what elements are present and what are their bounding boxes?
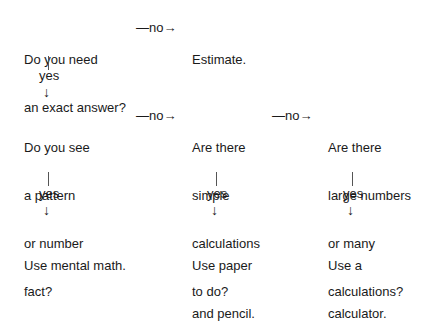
node-line: large numbers — [328, 188, 411, 204]
down-arrow-icon: ↓ — [43, 84, 50, 100]
down-arrow-icon: ↓ — [347, 202, 354, 218]
yes-label-1: yes — [39, 68, 59, 84]
node-use-mental-math: Use mental math. — [24, 226, 126, 290]
node-line: Do you see — [24, 140, 90, 156]
node-line: Use paper — [192, 258, 255, 274]
node-use-paper-pencil: Use paper and pencil. — [192, 226, 255, 325]
node-line: Use mental math. — [24, 258, 126, 274]
yes-label-3: yes — [207, 186, 227, 202]
node-line: Do you need — [24, 52, 126, 68]
connector-line — [216, 172, 217, 186]
connector-line — [48, 172, 49, 186]
node-line: Estimate. — [192, 52, 246, 68]
node-line: Are there — [192, 140, 260, 156]
no-arrow-3: —no→ — [272, 108, 312, 124]
node-line: and pencil. — [192, 306, 255, 322]
yes-label-2: yes — [39, 186, 59, 202]
yes-label-4: yes — [343, 186, 363, 202]
connector-line — [352, 172, 353, 186]
no-arrow-1: —no→ — [136, 20, 176, 36]
node-use-calculator: Use a calculator. — [328, 226, 387, 325]
no-arrow-2: —no→ — [136, 108, 176, 124]
node-estimate: Estimate. — [192, 20, 246, 84]
node-line: calculator. — [328, 306, 387, 322]
down-arrow-icon: ↓ — [43, 202, 50, 218]
down-arrow-icon: ↓ — [211, 202, 218, 218]
node-line: Are there — [328, 140, 411, 156]
node-line: Use a — [328, 258, 387, 274]
